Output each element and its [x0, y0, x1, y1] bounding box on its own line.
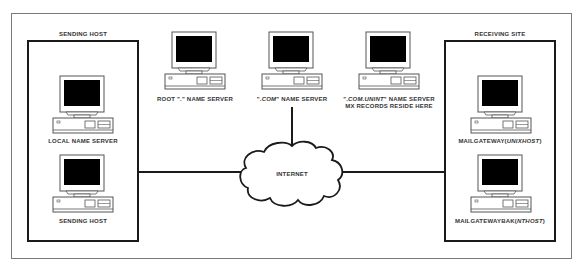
- unint-name-server-label: ".COM.UNINT" NAME SERVER: [334, 96, 444, 103]
- local-name-server-label: LOCAL NAME SERVER: [27, 138, 139, 145]
- root-name-server-label: ROOT "." NAME SERVER: [145, 96, 245, 103]
- sending-group-label: SENDING HOST: [27, 31, 139, 38]
- sending-to-internet-line: [139, 171, 241, 173]
- sending-host-computer-icon: [52, 154, 114, 214]
- local-name-server-computer-icon: [52, 75, 114, 135]
- mailgateway-label: MAILGATEWAY(UNIXHOST): [444, 138, 556, 145]
- com-name-server-label: ".COM" NAME SERVER: [242, 96, 342, 103]
- mx-records-label: MX RECORDS RESIDE HERE: [334, 103, 444, 110]
- sending-host-label: SENDING HOST: [27, 218, 139, 225]
- internet-label: INTERNET: [240, 171, 344, 177]
- unint-name-server-computer-icon: [358, 31, 420, 91]
- root-name-server-computer-icon: [164, 31, 226, 91]
- mailgatewaybak-computer-icon: [470, 154, 532, 214]
- mailgateway-computer-icon: [470, 75, 532, 135]
- internet-to-receiving-line: [343, 171, 444, 173]
- com-name-server-computer-icon: [261, 31, 323, 91]
- receiving-group-label: RECEIVING SITE: [444, 31, 556, 38]
- mailgatewaybak-label: MAILGATEWAYBAK(NTHOST): [444, 218, 556, 225]
